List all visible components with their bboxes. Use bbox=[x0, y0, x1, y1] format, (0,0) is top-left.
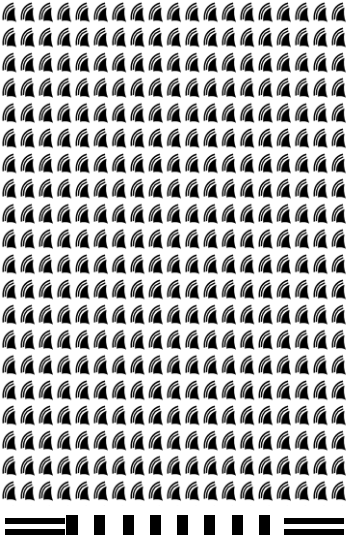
bar-strip bbox=[0, 512, 348, 535]
vbar-6 bbox=[204, 515, 215, 535]
left-hbar-top bbox=[5, 518, 65, 524]
vbar-5 bbox=[177, 515, 188, 535]
fin-motif-icon bbox=[0, 0, 348, 506]
vbar-8 bbox=[259, 515, 270, 535]
vbar-2 bbox=[94, 515, 105, 535]
left-hbar-bottom bbox=[5, 529, 65, 535]
vbar-1 bbox=[66, 515, 78, 535]
right-hbar-top bbox=[284, 518, 344, 524]
vbar-4 bbox=[150, 515, 161, 535]
vbar-3 bbox=[123, 515, 134, 535]
fin-pattern-grid bbox=[0, 0, 348, 506]
vbar-7 bbox=[232, 515, 243, 535]
right-hbar-bottom bbox=[284, 529, 344, 535]
